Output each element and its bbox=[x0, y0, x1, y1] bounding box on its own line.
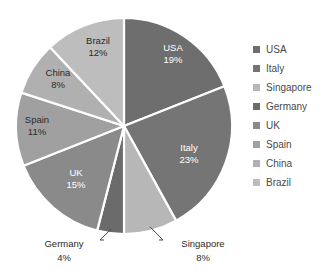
legend-item-spain[interactable]: Spain bbox=[253, 135, 332, 154]
slice-label-value-germany: 4% bbox=[57, 252, 71, 263]
slice-label-name-italy: Italy bbox=[180, 142, 198, 153]
slice-label-value-uk: 15% bbox=[66, 179, 86, 190]
slice-label-value-china: 8% bbox=[51, 79, 65, 90]
chart-legend: USAItalySingaporeGermanyUKSpainChinaBraz… bbox=[253, 40, 332, 192]
legend-item-brazil[interactable]: Brazil bbox=[253, 173, 332, 192]
legend-swatch-icon-singapore bbox=[253, 84, 260, 91]
legend-item-label: Brazil bbox=[266, 173, 291, 192]
legend-item-usa[interactable]: USA bbox=[253, 40, 332, 59]
legend-item-italy[interactable]: Italy bbox=[253, 59, 332, 78]
legend-swatch-icon-italy bbox=[253, 65, 260, 72]
legend-swatch-icon-uk bbox=[253, 122, 260, 129]
legend-swatch-icon-spain bbox=[253, 141, 260, 148]
slice-label-name-singapore: Singapore bbox=[181, 238, 224, 249]
pie-slices-group bbox=[16, 18, 232, 234]
legend-swatch-icon-china bbox=[253, 160, 260, 167]
legend-item-label: Singapore bbox=[266, 78, 312, 97]
slice-label-name-germany: Germany bbox=[44, 238, 83, 249]
legend-item-label: China bbox=[266, 154, 292, 173]
slice-label-value-italy: 23% bbox=[179, 154, 199, 165]
legend-item-germany[interactable]: Germany bbox=[253, 97, 332, 116]
legend-swatch-icon-usa bbox=[253, 46, 260, 53]
slice-label-name-uk: UK bbox=[69, 167, 83, 178]
legend-item-label: Germany bbox=[266, 97, 307, 116]
legend-item-singapore[interactable]: Singapore bbox=[253, 78, 332, 97]
legend-swatch-icon-germany bbox=[253, 103, 260, 110]
slice-label-name-usa: USA bbox=[163, 42, 183, 53]
slice-label-name-china: China bbox=[46, 67, 72, 78]
slice-label-name-brazil: Brazil bbox=[86, 35, 110, 46]
pie-chart-figure: USA19%Italy23%Singapore8%Germany4%UK15%S… bbox=[0, 0, 332, 277]
legend-item-label: Spain bbox=[266, 135, 292, 154]
legend-item-label: UK bbox=[266, 116, 280, 135]
slice-label-value-brazil: 12% bbox=[88, 47, 108, 58]
legend-swatch-icon-brazil bbox=[253, 179, 260, 186]
slice-label-value-spain: 11% bbox=[28, 126, 47, 137]
legend-item-label: Italy bbox=[266, 59, 284, 78]
legend-item-china[interactable]: China bbox=[253, 154, 332, 173]
slice-label-value-singapore: 8% bbox=[196, 252, 210, 263]
slice-label-value-usa: 19% bbox=[163, 54, 183, 65]
legend-item-uk[interactable]: UK bbox=[253, 116, 332, 135]
slice-label-name-spain: Spain bbox=[25, 114, 49, 125]
legend-item-label: USA bbox=[266, 40, 287, 59]
